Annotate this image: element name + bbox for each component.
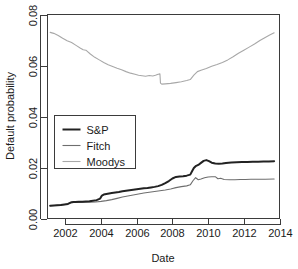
legend-label-moodys[interactable]: Moodys [87, 156, 126, 168]
default-probability-line-chart: 0.000.020.040.060.08 2002200420062008201… [0, 0, 298, 269]
chart-legend[interactable]: S&PFitchMoodys [55, 116, 136, 169]
y-axis-title: Default probability [4, 71, 16, 160]
x-tick-label-2: 2006 [125, 227, 149, 239]
x-axis: 2002200420062008201020122014 [53, 219, 292, 240]
series-line-moodys [50, 32, 274, 84]
x-tick-label-5: 2012 [232, 227, 256, 239]
legend-label-fitch[interactable]: Fitch [87, 140, 111, 152]
y-axis: 0.000.020.040.060.08 [27, 5, 47, 230]
y-tick-label-0: 0.00 [27, 209, 39, 230]
y-tick-label-2: 0.04 [27, 107, 39, 128]
x-tick-label-1: 2004 [89, 227, 113, 239]
x-axis-title: Date [151, 252, 174, 264]
chart-container: 0.000.020.040.060.08 2002200420062008201… [0, 0, 298, 269]
x-tick-label-4: 2010 [196, 227, 220, 239]
y-tick-label-1: 0.02 [27, 158, 39, 179]
y-tick-label-4: 0.08 [27, 5, 39, 26]
x-tick-label-3: 2008 [160, 227, 184, 239]
x-tick-label-0: 2002 [53, 227, 77, 239]
legend-label-s-p[interactable]: S&P [87, 124, 109, 136]
y-tick-label-3: 0.06 [27, 56, 39, 77]
x-tick-label-6: 2014 [268, 227, 292, 239]
